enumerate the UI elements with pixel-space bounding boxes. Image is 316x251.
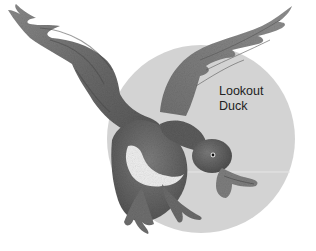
caption-line-1: Lookout (219, 84, 263, 99)
caption: Lookout Duck (219, 84, 263, 114)
caption-line-2: Duck (219, 99, 263, 114)
duck-illustration (0, 0, 316, 251)
